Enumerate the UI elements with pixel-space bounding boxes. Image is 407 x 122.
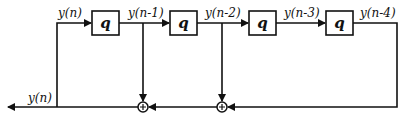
- block-diagram: q q q q y(n) y(n-1) y(n-2) y(n-3) y(n-4)…: [0, 0, 407, 122]
- summing-junction-2: [217, 102, 227, 112]
- label-y-n-3: y(n-3): [283, 6, 320, 20]
- delay-block-1-label: q: [100, 14, 111, 32]
- delay-block-3-label: q: [257, 14, 268, 32]
- feed-line: [57, 23, 91, 107]
- label-y-n-input: y(n): [57, 6, 82, 20]
- delay-block-4-label: q: [334, 14, 345, 32]
- label-y-n-4: y(n-4): [359, 6, 396, 20]
- label-y-n-2: y(n-2): [204, 6, 241, 20]
- label-y-n-1: y(n-1): [127, 6, 164, 20]
- delay-block-2-label: q: [178, 14, 189, 32]
- label-y-n-output: y(n): [27, 91, 52, 105]
- summing-junction-1: [138, 102, 148, 112]
